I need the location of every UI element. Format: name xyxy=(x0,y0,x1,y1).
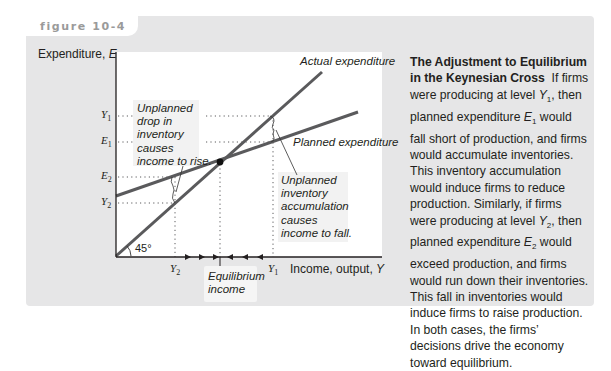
unplanned-accumulation-note: Unplanned inventory accumulation causes … xyxy=(281,174,352,240)
figure-caption: The Adjustment to Equilibrium in the Key… xyxy=(410,54,590,371)
y-tick-e1: E1 xyxy=(101,134,112,149)
angle-label: 45° xyxy=(135,242,152,254)
actual-expenditure-label: Actual expenditure xyxy=(300,55,395,67)
equilibrium-point xyxy=(217,159,224,166)
y-axis-title: Expenditure, E xyxy=(38,47,117,61)
gap-brace-y1 xyxy=(270,116,274,142)
y-tick-y1: Y1 xyxy=(101,108,111,123)
y-tick-e2: E2 xyxy=(101,169,112,184)
x-tick-y2: Y2 xyxy=(170,262,180,277)
y-tick-y2: Y2 xyxy=(101,195,111,210)
leader-line-left xyxy=(176,166,183,192)
gap-brace-y2 xyxy=(171,177,175,203)
planned-expenditure-label: Planned expenditure xyxy=(293,136,399,148)
x-tick-y1: Y1 xyxy=(268,262,278,277)
equilibrium-income-note: Equilibrium income xyxy=(208,270,265,296)
x-axis-title: Income, output, Y xyxy=(290,262,384,276)
unplanned-drop-note: Unplanned drop in inventory causes incom… xyxy=(137,102,212,168)
